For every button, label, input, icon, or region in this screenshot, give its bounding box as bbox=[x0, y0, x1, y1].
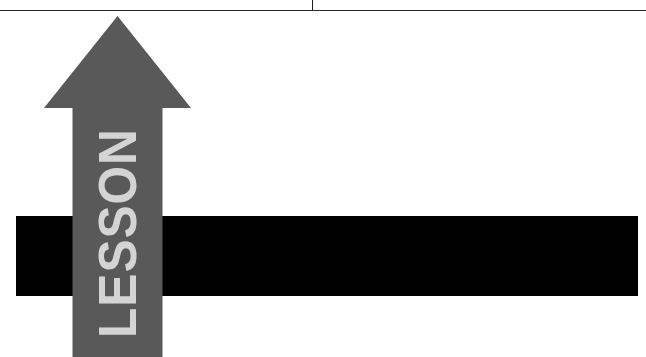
vertical-tick bbox=[312, 0, 313, 11]
lesson-arrow-graphic bbox=[40, 14, 196, 357]
lesson-banner-page: LESSON bbox=[0, 0, 646, 357]
up-arrow-shape bbox=[44, 16, 191, 357]
horizontal-rule bbox=[0, 10, 646, 11]
up-arrow-icon bbox=[40, 14, 196, 357]
